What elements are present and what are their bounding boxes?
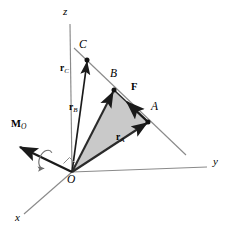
point-A-label: A (151, 101, 158, 113)
vector-r-B-subscript: B (73, 106, 77, 114)
vector-M-O-symbol: M (11, 118, 21, 129)
vector-r-B-label: rB (69, 103, 78, 114)
moment-diagram-figure: z y x O C B A rC rB rA F MO (0, 0, 233, 239)
y-axis-line (72, 167, 207, 172)
point-B-dot (112, 88, 117, 93)
diagram-canvas (0, 0, 233, 239)
point-A-dot (146, 120, 151, 125)
origin-label: O (67, 174, 75, 186)
y-axis-label: y (213, 156, 218, 167)
vector-r-A-subscript: A (120, 136, 124, 144)
vector-M-O-subscript: O (21, 122, 26, 131)
point-C-label: C (79, 39, 87, 51)
vector-M-O-label: MO (11, 119, 26, 131)
point-C-dot (85, 58, 90, 63)
vector-r-C-subscript: C (64, 67, 69, 75)
x-axis-line (24, 172, 72, 214)
z-axis-label: z (63, 6, 67, 17)
vector-F-label: F (131, 82, 137, 93)
vector-r-A-label: rA (116, 133, 125, 144)
point-B-label: B (110, 68, 117, 80)
vector-r-C-label: rC (60, 64, 69, 75)
x-axis-label: x (15, 212, 20, 223)
z-axis-line (70, 24, 72, 172)
